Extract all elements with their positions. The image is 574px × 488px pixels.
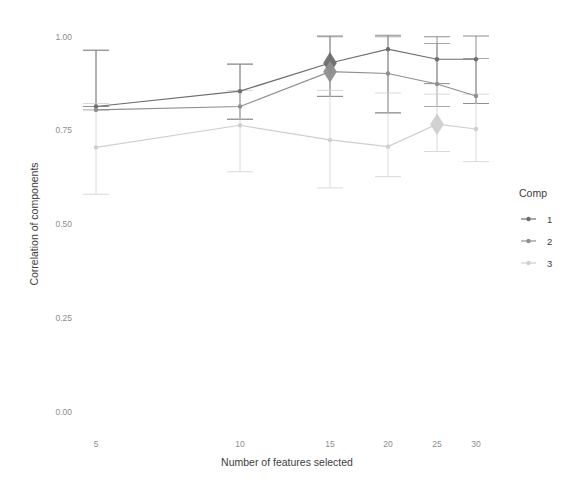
- series-point[interactable]: [386, 144, 390, 148]
- error-bars-group: [83, 35, 489, 194]
- series-point[interactable]: [238, 123, 242, 127]
- legend-key-marker-2[interactable]: [526, 239, 530, 243]
- x-tick-label: 25: [432, 439, 442, 449]
- series-point[interactable]: [474, 94, 478, 98]
- legend-label-3: 3: [547, 258, 552, 269]
- y-axis-ticks: 0.000.250.500.751.00: [55, 32, 72, 417]
- x-tick-label: 5: [94, 439, 99, 449]
- x-tick-label: 30: [471, 439, 481, 449]
- x-axis-title: Number of features selected: [221, 456, 353, 468]
- series-point[interactable]: [474, 57, 478, 61]
- series-point[interactable]: [435, 57, 439, 61]
- series-point[interactable]: [238, 104, 242, 108]
- legend-label-1: 1: [547, 214, 552, 225]
- x-axis-ticks: 51015202530: [94, 439, 481, 449]
- x-tick-label: 15: [325, 439, 335, 449]
- y-axis-title: Correlation of components: [28, 162, 40, 285]
- correlation-line-chart: 0.000.250.500.751.0051015202530Number of…: [0, 0, 574, 488]
- x-tick-label: 10: [235, 439, 245, 449]
- series-2: [94, 61, 478, 112]
- y-tick-label: 0.50: [55, 219, 72, 229]
- legend-key-marker-1[interactable]: [526, 217, 530, 221]
- y-tick-label: 1.00: [55, 32, 72, 42]
- legend-key-marker-3[interactable]: [526, 261, 530, 265]
- legend-title: Comp: [519, 187, 547, 199]
- series-point[interactable]: [435, 82, 439, 86]
- series-1: [94, 47, 478, 109]
- series-point[interactable]: [474, 127, 478, 131]
- y-tick-label: 0.25: [55, 313, 72, 323]
- series-point[interactable]: [328, 138, 332, 142]
- series-point[interactable]: [94, 145, 98, 149]
- y-tick-label: 0.00: [55, 407, 72, 417]
- series-point[interactable]: [94, 108, 98, 112]
- series-point[interactable]: [386, 71, 390, 75]
- series-point[interactable]: [238, 89, 242, 93]
- legend: Comp123: [519, 187, 552, 269]
- error-bar: [83, 50, 109, 110]
- y-tick-label: 0.75: [55, 125, 72, 135]
- series-3: [94, 113, 478, 149]
- series-point[interactable]: [386, 47, 390, 51]
- series-line: [96, 124, 476, 147]
- series-line: [96, 49, 476, 106]
- x-tick-label: 20: [383, 439, 393, 449]
- series-point-highlight[interactable]: [430, 113, 444, 135]
- chart-container: 0.000.250.500.751.0051015202530Number of…: [0, 0, 574, 488]
- legend-label-2: 2: [547, 236, 552, 247]
- error-bar: [375, 93, 401, 177]
